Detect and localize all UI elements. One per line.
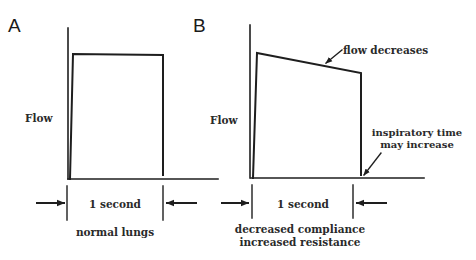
panel-b-duration-label: 1 second — [277, 198, 330, 210]
flow-decreases-annotation: flow decreases — [343, 44, 428, 56]
panel-a-letter: A — [8, 15, 21, 36]
inspiratory-time-annotation-line-1: inspiratory time — [372, 127, 462, 138]
flow-waveform-diagram: A Flow 1 second normal lungs B Flow flow… — [0, 0, 476, 260]
panel-b-caption-line-1: decreased compliance — [235, 223, 366, 235]
panel-b-flow-waveform — [253, 53, 361, 178]
panel-a-flow-waveform — [70, 54, 163, 179]
flow-decreases-arrow-icon — [326, 50, 342, 63]
panel-b-caption-line-2: increased resistance — [239, 236, 360, 248]
panel-a-duration-label: 1 second — [89, 198, 142, 210]
panel-b-y-axis-label: Flow — [210, 114, 238, 126]
panel-b-letter: B — [193, 15, 206, 36]
panel-a-y-axis-label: Flow — [25, 112, 53, 124]
inspiratory-time-annotation-line-2: may increase — [380, 139, 454, 150]
panel-a-caption: normal lungs — [76, 226, 154, 238]
inspiratory-time-arrow-icon — [364, 153, 381, 175]
panel-a: A Flow 1 second normal lungs — [8, 15, 218, 238]
panel-b: B Flow flow decreases inspiratory time m… — [193, 15, 462, 248]
